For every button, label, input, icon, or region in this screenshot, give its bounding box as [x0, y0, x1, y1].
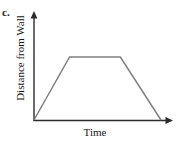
plot-area — [0, 0, 185, 151]
distance-time-curve — [34, 57, 161, 120]
y-axis-arrow-icon — [31, 11, 38, 19]
distance-time-graph-figure: c. Distance from Wall Time — [0, 0, 185, 151]
x-axis-arrow-icon — [166, 117, 174, 124]
